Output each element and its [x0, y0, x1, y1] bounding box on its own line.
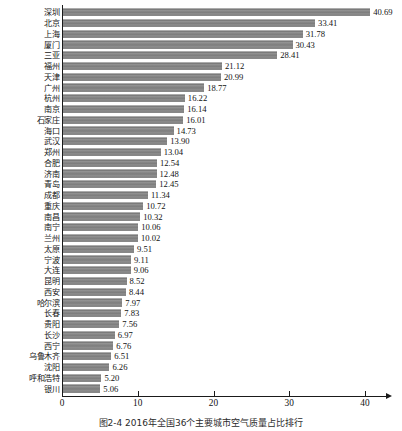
bar-value-label: 16.22: [188, 94, 207, 103]
category-label: 北京: [0, 19, 60, 28]
bar-track: 33.41: [62, 18, 402, 29]
category-label: 天津: [0, 72, 60, 81]
bar-value-label: 31.78: [306, 29, 325, 38]
bar: [62, 256, 131, 263]
bar-row: 长沙6.97: [0, 330, 402, 341]
bar-row: 沈阳6.26: [0, 362, 402, 373]
bar-track: 13.90: [62, 136, 402, 147]
bar: [62, 159, 157, 166]
category-label: 郑州: [0, 148, 60, 157]
bar-value-label: 5.20: [104, 373, 119, 382]
bar: [62, 288, 126, 295]
plot-area: 深圳40.69北京33.41上海31.78厦门30.43三亚28.41福州21.…: [0, 0, 402, 431]
bar-row: 长春7.83: [0, 308, 402, 319]
category-label: 太原: [0, 244, 60, 253]
x-axis-tick-label: 40: [360, 398, 369, 409]
bar-track: 8.52: [62, 276, 402, 287]
bar-row: 三亚28.41: [0, 50, 402, 61]
bar-value-label: 28.41: [280, 51, 299, 60]
bar-value-label: 9.11: [134, 255, 149, 264]
bar-value-label: 40.69: [373, 8, 392, 17]
x-axis-tick-label: 30: [285, 398, 294, 409]
bar-row: 银川5.06: [0, 383, 402, 394]
x-axis-tick: [138, 391, 139, 396]
category-label: 沈阳: [0, 363, 60, 372]
bar-track: 21.12: [62, 61, 402, 72]
bar-value-label: 6.97: [118, 330, 133, 339]
bar: [62, 84, 204, 91]
category-label: 昆明: [0, 277, 60, 286]
x-axis-tick-label: 10: [133, 398, 142, 409]
bar-row: 海口14.73: [0, 125, 402, 136]
x-axis-tick-label: 20: [209, 398, 218, 409]
bar-track: 6.76: [62, 340, 402, 351]
category-label: 福州: [0, 62, 60, 71]
bar-value-label: 20.99: [224, 72, 243, 81]
category-label: 大连: [0, 266, 60, 275]
bar-track: 31.78: [62, 29, 402, 40]
bar-value-label: 6.51: [114, 352, 129, 361]
bar-value-label: 12.45: [159, 180, 178, 189]
bar-row: 太原9.51: [0, 244, 402, 255]
bar: [62, 30, 303, 37]
category-label: 厦门: [0, 40, 60, 49]
bar: [62, 342, 113, 349]
x-axis-tick: [289, 391, 290, 396]
bar-track: 28.41: [62, 50, 402, 61]
bar: [62, 149, 161, 156]
category-label: 西宁: [0, 341, 60, 350]
bar-track: 16.01: [62, 115, 402, 126]
bar-track: 6.51: [62, 351, 402, 362]
bar-track: 6.97: [62, 330, 402, 341]
bar-row: 深圳40.69: [0, 7, 402, 18]
bar: [62, 331, 115, 338]
bar-track: 16.22: [62, 93, 402, 104]
category-label: 宁波: [0, 255, 60, 264]
bar-track: 12.48: [62, 168, 402, 179]
category-label: 济南: [0, 169, 60, 178]
bar-track: 9.51: [62, 244, 402, 255]
category-label: 兰州: [0, 234, 60, 243]
bar-row: 青岛12.45: [0, 179, 402, 190]
category-label: 广州: [0, 83, 60, 92]
bar-value-label: 7.56: [122, 320, 137, 329]
bar-value-label: 18.77: [207, 83, 226, 92]
bar-value-label: 11.34: [151, 191, 170, 200]
category-label: 南宁: [0, 223, 60, 232]
bar: [62, 245, 134, 252]
figure-caption: 图2-4 2016年全国36个主要城市空气质量占比排行: [0, 417, 402, 430]
bar-track: 6.26: [62, 362, 402, 373]
bar: [62, 235, 138, 242]
category-label: 青岛: [0, 180, 60, 189]
bar-value-label: 13.90: [170, 137, 189, 146]
bar: [62, 95, 185, 102]
bar-value-label: 12.54: [160, 158, 179, 167]
bar-track: 5.06: [62, 383, 402, 394]
bar: [62, 127, 174, 134]
bar-track: 9.11: [62, 254, 402, 265]
bar-chart: 深圳40.69北京33.41上海31.78厦门30.43三亚28.41福州21.…: [0, 0, 402, 431]
bar: [62, 374, 101, 381]
bar-value-label: 8.44: [129, 287, 144, 296]
bar-track: 9.06: [62, 265, 402, 276]
category-label: 深圳: [0, 8, 60, 17]
bar-row: 杭州16.22: [0, 93, 402, 104]
bar: [62, 73, 221, 80]
x-axis-arrow-icon: [386, 393, 392, 399]
bar: [62, 385, 100, 392]
bar: [62, 364, 109, 371]
bar-value-label: 7.97: [125, 298, 140, 307]
bar: [62, 9, 370, 16]
x-axis-line: [62, 396, 387, 397]
bar: [62, 224, 138, 231]
bar-value-label: 16.14: [187, 105, 206, 114]
category-label: 乌鲁木齐: [0, 352, 60, 361]
bar-value-label: 10.02: [141, 234, 160, 243]
bar-value-label: 6.76: [116, 341, 131, 350]
bar-row: 重庆10.72: [0, 201, 402, 212]
bar-value-label: 5.06: [103, 384, 118, 393]
bar: [62, 138, 167, 145]
bar-track: 5.20: [62, 373, 402, 384]
bar: [62, 52, 277, 59]
bar-track: 10.32: [62, 211, 402, 222]
